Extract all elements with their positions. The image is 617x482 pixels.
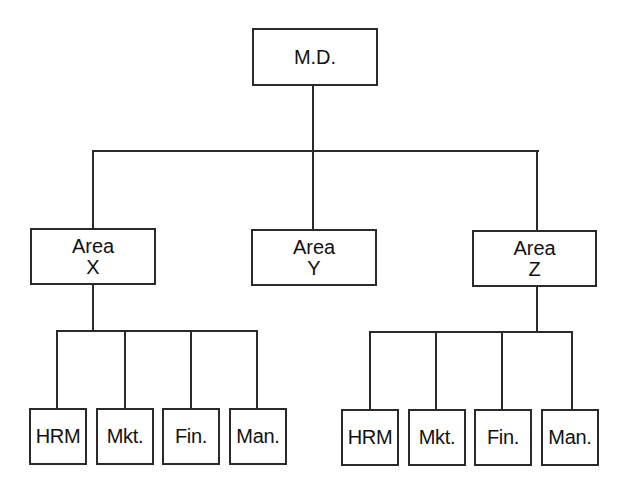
node-area-z-line1: Area xyxy=(513,238,555,259)
connector-root-down xyxy=(312,84,314,152)
node-x-hrm-label: HRM xyxy=(36,426,81,447)
node-x-fin: Fin. xyxy=(162,408,220,465)
node-x-fin-label: Fin. xyxy=(175,426,207,447)
node-z-hrm: HRM xyxy=(341,409,399,466)
connector-x-fin xyxy=(190,330,192,409)
node-z-man-label: Man. xyxy=(548,427,591,448)
connector-area-x-dept-bar xyxy=(56,330,258,332)
node-area-x: Area X xyxy=(30,228,156,285)
connector-area-z-down xyxy=(536,285,538,333)
node-z-mkt-label: Mkt. xyxy=(419,427,456,448)
node-x-mkt-label: Mkt. xyxy=(107,426,144,447)
connector-area-z-up xyxy=(536,150,538,231)
node-x-man-label: Man. xyxy=(236,426,279,447)
connector-x-man xyxy=(256,330,258,409)
node-area-x-line1: Area xyxy=(72,236,114,257)
connector-z-hrm xyxy=(369,331,371,410)
node-area-x-line2: X xyxy=(86,257,99,278)
node-x-mkt: Mkt. xyxy=(96,408,154,465)
node-area-y-line2: Y xyxy=(307,258,320,279)
connector-area-z-dept-bar xyxy=(369,331,573,333)
connector-z-mkt xyxy=(435,331,437,410)
node-z-fin: Fin. xyxy=(474,409,532,466)
connector-x-hrm xyxy=(56,330,58,409)
node-md: M.D. xyxy=(252,28,378,86)
connector-z-man xyxy=(571,331,573,410)
node-z-hrm-label: HRM xyxy=(348,427,393,448)
node-md-label: M.D. xyxy=(294,47,336,68)
connector-area-x-up xyxy=(92,150,94,229)
node-area-y-line1: Area xyxy=(293,237,335,258)
node-area-z: Area Z xyxy=(472,230,597,287)
node-area-y: Area Y xyxy=(251,229,377,286)
node-z-mkt: Mkt. xyxy=(408,409,466,466)
node-x-man: Man. xyxy=(229,408,287,465)
node-area-z-line2: Z xyxy=(528,259,540,280)
node-z-man: Man. xyxy=(541,409,599,466)
connector-x-mkt xyxy=(124,330,126,409)
connector-area-y-up xyxy=(312,150,314,230)
connector-area-bar xyxy=(92,150,539,152)
connector-z-fin xyxy=(501,331,503,410)
node-z-fin-label: Fin. xyxy=(487,427,519,448)
node-x-hrm: HRM xyxy=(29,408,87,465)
connector-area-x-down xyxy=(92,283,94,332)
